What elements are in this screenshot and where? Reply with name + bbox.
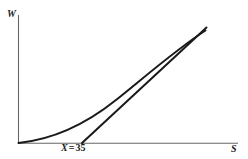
- x-intercept-variable: X: [61, 142, 68, 153]
- x-intercept-annotation: X=35: [61, 143, 85, 153]
- y-axis-label: W: [7, 9, 16, 19]
- series-tangent-line: [82, 28, 207, 144]
- cost-curve-figure: W S X=35: [0, 0, 248, 159]
- series-curve: [19, 31, 206, 144]
- x-intercept-value: 35: [75, 142, 85, 153]
- x-axis-label: S: [231, 144, 237, 154]
- plot-area: [0, 0, 248, 159]
